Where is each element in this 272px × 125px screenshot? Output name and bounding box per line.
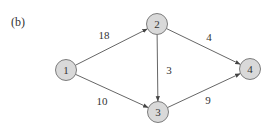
edge-2-4 <box>166 29 240 65</box>
node-label: 4 <box>247 63 253 75</box>
edge-labels-layer: 1810439 <box>97 29 213 107</box>
edge-1-3 <box>76 74 148 107</box>
node-label: 2 <box>154 18 160 30</box>
node-label: 3 <box>155 106 161 118</box>
nodes-layer: 1234 <box>56 14 261 123</box>
graph-svg: 1810439 1234 <box>0 0 272 125</box>
edge-1-2 <box>75 29 147 65</box>
edge-weight-label: 10 <box>97 95 109 107</box>
edge-weight-label: 18 <box>99 29 111 41</box>
edge-2-3 <box>157 34 158 101</box>
panel-label: (b) <box>11 15 25 30</box>
node-4: 4 <box>240 59 261 80</box>
edge-3-4 <box>168 74 241 108</box>
node-3: 3 <box>148 102 169 123</box>
graph-diagram: (b) 1810439 1234 <box>0 0 272 125</box>
node-2: 2 <box>147 14 168 35</box>
edge-weight-label: 9 <box>205 94 211 106</box>
edge-weight-label: 3 <box>166 64 172 76</box>
node-label: 1 <box>63 64 69 76</box>
node-1: 1 <box>56 60 77 81</box>
edge-weight-label: 4 <box>206 31 212 43</box>
